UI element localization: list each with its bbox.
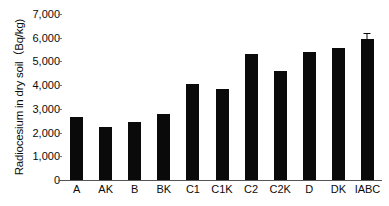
x-axis-tick-label-a: A — [62, 183, 91, 196]
error-bar-iabc — [367, 34, 368, 39]
bar-a — [70, 117, 83, 180]
y-axis-tick-label: 5,000 — [32, 56, 60, 67]
bar-d — [303, 52, 316, 180]
bar-slot — [266, 14, 295, 180]
x-axis-tick-label-c1: C1 — [178, 183, 207, 196]
bar-slot — [295, 14, 324, 180]
bar-ak — [99, 127, 112, 180]
y-axis-tick-label: 4,000 — [32, 80, 60, 91]
y-axis-tick-label: 6,000 — [32, 32, 60, 43]
x-axis-tick-label-c1k: C1K — [207, 183, 236, 196]
bar-slot — [149, 14, 178, 180]
bar-slot — [178, 14, 207, 180]
x-axis-tick-label-c2: C2 — [237, 183, 266, 196]
bar-c1 — [186, 84, 199, 180]
bar-iabc — [361, 39, 374, 180]
bar-slot — [237, 14, 266, 180]
x-axis-tick-label-dk: DK — [324, 183, 353, 196]
plot-area — [62, 14, 382, 180]
y-axis-tick-label: 7,000 — [32, 9, 60, 20]
bar-slot — [353, 14, 382, 180]
bar-slot — [120, 14, 149, 180]
error-bar-cap-iabc — [364, 33, 371, 34]
x-axis-tick-label-d: D — [295, 183, 324, 196]
bar-slot — [91, 14, 120, 180]
x-axis-tick-label-iabc: IABC — [353, 183, 382, 196]
bar-c1k — [216, 89, 229, 180]
bar-c2 — [245, 54, 258, 180]
bar-slot — [207, 14, 236, 180]
bar-slot — [324, 14, 353, 180]
bar-b — [128, 122, 141, 180]
bar-chart-figure: Radiocesium in dry soil（Bq/kg) 01,0002,0… — [0, 0, 389, 206]
bar-dk — [332, 48, 345, 180]
x-axis-tick-label-bk: BK — [149, 183, 178, 196]
y-axis-tick-label: 1,000 — [32, 151, 60, 162]
x-axis-tick-label-c2k: C2K — [266, 183, 295, 196]
x-axis-tick-label-ak: AK — [91, 183, 120, 196]
bar-series — [62, 14, 382, 180]
y-axis-tick-label: 2,000 — [32, 127, 60, 138]
y-axis-tick-label: 3,000 — [32, 103, 60, 114]
bar-c2k — [274, 71, 287, 180]
bar-bk — [157, 114, 170, 180]
x-axis-tick-labels: AAKBBKC1C1KC2C2KDDKIABC — [62, 183, 382, 196]
x-axis-tick-label-b: B — [120, 183, 149, 196]
y-axis-tick-labels: 01,0002,0003,0004,0005,0006,0007,000 — [16, 8, 60, 188]
x-axis-line — [59, 180, 382, 181]
bar-slot — [62, 14, 91, 180]
